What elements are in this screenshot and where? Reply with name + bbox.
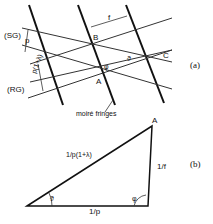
hypotenuse-label: 1/p(1+λ) [66, 151, 92, 158]
sg-label: (SG) [4, 32, 21, 40]
point-c-label: C [163, 52, 169, 60]
sg-pitch-label: p [25, 37, 29, 45]
base-label: 1/p [89, 208, 100, 216]
moire-figure: (SG) (RG) p p(1+λ) f B A C φ ϑ (a) moiré… [0, 0, 213, 224]
moire-fringes-caption: moiré fringes [76, 110, 116, 117]
vertex-a-label: A [152, 117, 157, 125]
theta-angle-label: ϑ [127, 55, 131, 62]
rg-label: (RG) [7, 86, 24, 94]
theta-angle-label-b: ϑ [50, 195, 54, 202]
vector-triangle [27, 126, 152, 206]
panel-b-id: (b) [190, 160, 201, 169]
point-b-label: B [93, 34, 98, 42]
right-side-label: 1/f [157, 163, 166, 171]
point-a-label: A [96, 78, 101, 86]
moire-fringe-lines [29, 5, 164, 105]
phi-angle-label: φ [104, 63, 109, 70]
fringe-spacing-label: f [108, 14, 110, 22]
panel-a-id: (a) [190, 61, 200, 70]
phi-angle-label-b: φ [132, 195, 137, 202]
